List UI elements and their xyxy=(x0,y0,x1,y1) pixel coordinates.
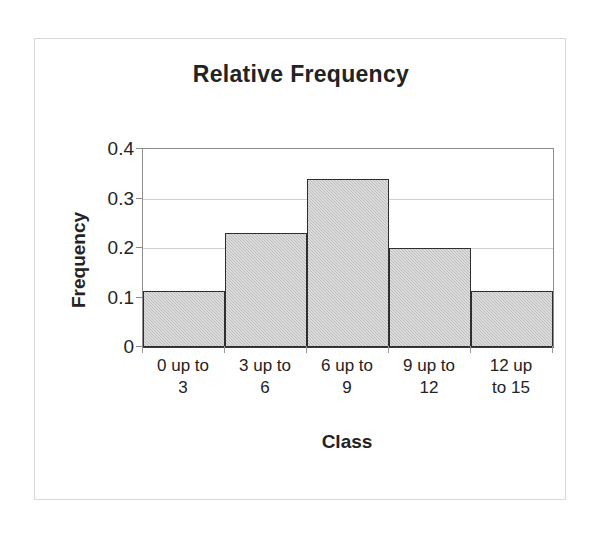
chart-title: Relative Frequency xyxy=(35,61,567,88)
x-axis-tick-label: 0 up to3 xyxy=(142,355,224,399)
x-axis-tick-mark xyxy=(142,346,143,353)
x-axis-tick-label-line: 0 up to xyxy=(142,355,224,377)
x-axis-tick-label: 12 upto 15 xyxy=(470,355,552,399)
x-axis-title: Class xyxy=(142,431,552,453)
x-axis-tick-label-line: 12 up xyxy=(470,355,552,377)
x-axis-tick-mark xyxy=(224,346,225,353)
y-axis-tick-label: 0.3 xyxy=(68,189,134,208)
x-axis-tick-label-line: 12 xyxy=(388,377,470,399)
bar xyxy=(225,233,307,347)
bar xyxy=(389,248,471,347)
x-axis-tick-mark xyxy=(306,346,307,353)
x-axis-tick-mark xyxy=(388,346,389,353)
x-axis-tick-label: 3 up to6 xyxy=(224,355,306,399)
bar xyxy=(143,291,225,347)
chart-figure-frame: Relative Frequency Frequency 00.10.20.30… xyxy=(34,38,566,500)
plot-area xyxy=(142,148,554,348)
x-axis-tick-label: 6 up to9 xyxy=(306,355,388,399)
x-axis-tick-label-line: 3 xyxy=(142,377,224,399)
x-axis-tick-label-line: to 15 xyxy=(470,377,552,399)
y-axis-tick-label: 0.2 xyxy=(68,238,134,257)
y-axis-tick-label: 0.4 xyxy=(68,139,134,158)
x-axis-tick-label-line: 3 up to xyxy=(224,355,306,377)
bar xyxy=(307,179,389,347)
y-axis-tick-label: 0 xyxy=(68,337,134,356)
x-axis-tick-label-line: 9 up to xyxy=(388,355,470,377)
x-axis-tick-label: 9 up to12 xyxy=(388,355,470,399)
bar xyxy=(471,291,553,347)
x-axis-tick-mark xyxy=(552,346,553,353)
x-axis-tick-label-line: 6 up to xyxy=(306,355,388,377)
bar-series xyxy=(143,149,553,347)
x-axis-tick-label-line: 9 xyxy=(306,377,388,399)
y-axis-tick-label: 0.1 xyxy=(68,288,134,307)
x-axis-tick-label-line: 6 xyxy=(224,377,306,399)
x-axis-tick-mark xyxy=(470,346,471,353)
